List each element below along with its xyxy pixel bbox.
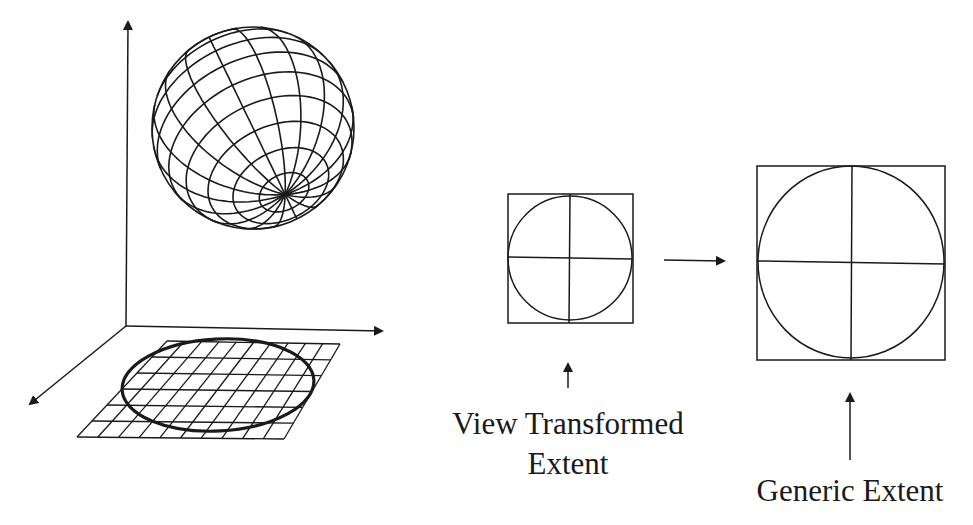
- view-transformed-extent-label: View Transformed Extent: [418, 404, 718, 484]
- horizontal-axis: [126, 326, 382, 331]
- view-transformed-extent-box: [508, 194, 633, 323]
- ground-grid: [77, 341, 340, 439]
- generic-extent-label: Generic Extent: [700, 471, 973, 511]
- axes-group: [30, 22, 382, 404]
- view-transformed-label-line2: Extent: [418, 444, 718, 484]
- transform-arrow: [664, 260, 724, 261]
- depth-axis: [30, 326, 126, 404]
- view-transformed-label-line1: View Transformed: [418, 404, 718, 444]
- vertical-axis: [126, 22, 128, 326]
- generic-extent-box: [757, 166, 945, 360]
- projected-ellipse: [120, 334, 317, 436]
- wireframe-sphere: [152, 27, 354, 229]
